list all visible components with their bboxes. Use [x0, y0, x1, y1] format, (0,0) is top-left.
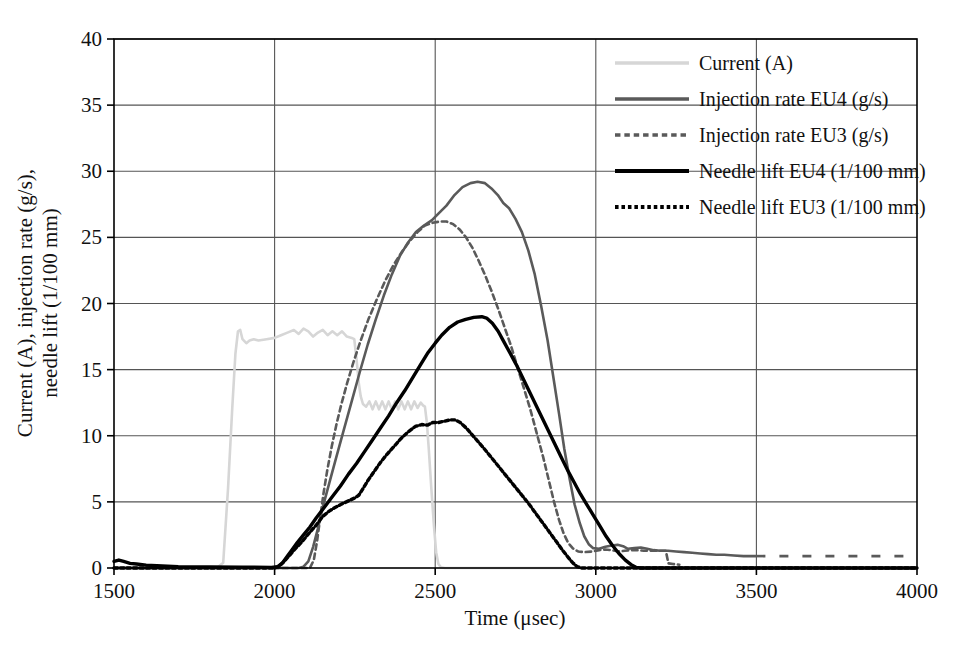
- legend-label-needle_eu4: Needle lift EU4 (1/100 mm): [699, 160, 926, 183]
- legend-label-injection_eu3: Injection rate EU3 (g/s): [699, 124, 888, 147]
- y-tick-label: 25: [81, 225, 102, 249]
- y-tick-label: 0: [92, 556, 103, 580]
- y-tick-label: 10: [81, 424, 102, 448]
- y-tick-label: 40: [81, 27, 102, 51]
- chart-canvas: 0510152025303540150020002500300035004000…: [0, 0, 957, 661]
- x-tick-label: 2500: [414, 579, 456, 603]
- legend-label-needle_eu3: Needle lift EU3 (1/100 mm): [699, 196, 926, 219]
- x-tick-label: 3500: [735, 579, 777, 603]
- y-tick-label: 35: [81, 93, 102, 117]
- y-tick-label: 15: [81, 358, 102, 382]
- x-tick-label: 1500: [93, 579, 135, 603]
- y-axis-title-line2: needle lift (1/100 mm): [38, 208, 62, 398]
- y-tick-label: 20: [81, 292, 102, 316]
- y-tick-label: 5: [92, 490, 103, 514]
- chart-figure: 0510152025303540150020002500300035004000…: [0, 0, 957, 661]
- legend-label-injection_eu4: Injection rate EU4 (g/s): [699, 88, 888, 111]
- legend-label-current: Current (A): [699, 52, 793, 75]
- x-tick-label: 2000: [254, 579, 296, 603]
- x-tick-label: 4000: [896, 579, 938, 603]
- y-axis-title-line1: Current (A), injection rate (g/s),: [13, 169, 37, 437]
- x-tick-label: 3000: [575, 579, 617, 603]
- x-axis-title: Time (μsec): [465, 606, 566, 630]
- y-tick-label: 30: [81, 159, 102, 183]
